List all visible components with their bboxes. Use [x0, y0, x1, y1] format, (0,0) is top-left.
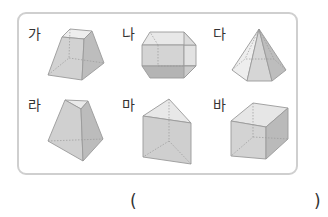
- triangular-prism-figure: [143, 99, 191, 164]
- answer-close-paren: ): [314, 193, 321, 210]
- square-frustum-figure: [48, 29, 104, 80]
- truncated-prism-figure: [142, 32, 196, 78]
- cube-figure: [231, 103, 288, 159]
- triangular-frustum-figure: [48, 100, 103, 161]
- figures-drawing: [0, 0, 328, 217]
- answer-blank[interactable]: [140, 192, 310, 212]
- hexagonal-pyramid-figure: [232, 29, 286, 81]
- answer-open-paren: (: [130, 193, 137, 210]
